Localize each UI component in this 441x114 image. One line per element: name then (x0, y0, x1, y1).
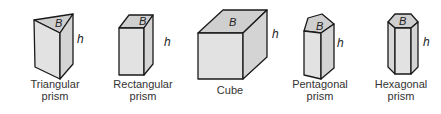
cube-base-label: B (229, 16, 236, 28)
cube-height-label: h (272, 27, 279, 41)
pentagonal-height-label: h (337, 36, 344, 50)
cube: B h (198, 10, 279, 79)
cube-caption-line1: Cube (205, 84, 255, 96)
pentagonal-side-face (321, 24, 334, 79)
hexagonal-caption-line2: prism (368, 90, 434, 102)
cube-caption: Cube (205, 84, 255, 96)
hexagonal-base-label: B (399, 15, 406, 27)
rectangular-front-face (119, 28, 144, 75)
hexagonal-caption-line1: Hexagonal (368, 78, 434, 90)
triangular-caption-line1: Triangular (22, 78, 88, 90)
pentagonal-front-face (304, 31, 321, 79)
triangular-prism: B h (34, 14, 84, 79)
hexagonal-height-label: h (423, 35, 430, 49)
hexagonal-front-face (395, 28, 411, 74)
pentagonal-caption-line2: prism (285, 90, 355, 102)
pentagonal-prism-caption: Pentagonal prism (285, 78, 355, 102)
rectangular-height-label: h (164, 35, 171, 49)
rectangular-caption-line1: Rectangular (108, 78, 178, 90)
pentagonal-prism: B h (304, 14, 344, 79)
cube-front-face (198, 33, 243, 79)
triangular-caption-line2: prism (22, 90, 88, 102)
hexagonal-right-face (411, 22, 418, 74)
hexagonal-left-face (388, 22, 395, 74)
pentagonal-base-label: B (316, 20, 323, 32)
rectangular-prism: B h (119, 15, 171, 75)
rectangular-prism-caption: Rectangular prism (108, 78, 178, 102)
rectangular-base-label: B (139, 15, 146, 27)
hexagonal-prism: B h (388, 14, 430, 74)
rectangular-caption-line2: prism (108, 90, 178, 102)
triangular-prism-caption: Triangular prism (22, 78, 88, 102)
triangular-height-label: h (77, 32, 84, 46)
pentagonal-caption-line1: Pentagonal (285, 78, 355, 90)
triangular-base-label: B (55, 17, 62, 29)
hexagonal-prism-caption: Hexagonal prism (368, 78, 434, 102)
